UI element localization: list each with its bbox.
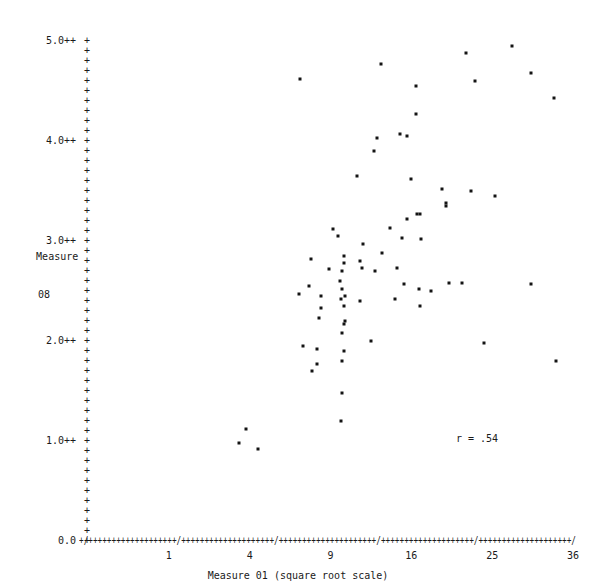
y-axis-tick-label: 1.0++ xyxy=(30,436,76,446)
data-point xyxy=(399,133,402,136)
data-point xyxy=(358,260,361,263)
data-point xyxy=(379,63,382,66)
data-point xyxy=(342,323,345,326)
data-point xyxy=(342,262,345,265)
y-axis-tick-label: 0.0 xyxy=(36,536,76,546)
data-point xyxy=(529,72,532,75)
y-axis-title: Measure 08 xyxy=(12,228,76,342)
x-axis-tick-label: 9 xyxy=(327,551,333,561)
data-point xyxy=(395,267,398,270)
data-point xyxy=(311,370,314,373)
data-point xyxy=(416,213,419,216)
data-point xyxy=(410,178,413,181)
data-point xyxy=(393,298,396,301)
data-point xyxy=(372,150,375,153)
data-point xyxy=(340,298,343,301)
data-point xyxy=(420,238,423,241)
data-point xyxy=(553,97,556,100)
y-axis-tick-label: 4.0++ xyxy=(30,136,76,146)
x-axis-title: Measure 01 (square root scale) xyxy=(0,570,596,582)
data-point xyxy=(370,340,373,343)
data-point xyxy=(338,280,341,283)
data-point xyxy=(362,243,365,246)
data-point xyxy=(444,202,447,205)
data-point xyxy=(418,288,421,291)
x-axis-tick-label: 1 xyxy=(166,551,172,561)
scatter-plot-figure: ++++++++++++++++++++++++++++++++++++++++… xyxy=(0,0,596,587)
data-point xyxy=(341,288,344,291)
data-point xyxy=(415,113,418,116)
data-point xyxy=(494,195,497,198)
data-point xyxy=(401,237,404,240)
data-point xyxy=(238,442,241,445)
data-point xyxy=(341,270,344,273)
data-point xyxy=(441,188,444,191)
data-point xyxy=(373,270,376,273)
data-point xyxy=(342,305,345,308)
data-point xyxy=(332,228,335,231)
data-point xyxy=(483,342,486,345)
data-point xyxy=(444,205,447,208)
data-point xyxy=(297,293,300,296)
data-point xyxy=(340,420,343,423)
data-point xyxy=(419,213,422,216)
data-point xyxy=(470,190,473,193)
data-point xyxy=(415,85,418,88)
data-point xyxy=(465,52,468,55)
x-axis-line: +/+++++++++++++++++++/++++++++++++++++++… xyxy=(79,536,576,546)
y-axis-tick-label: 5.0++ xyxy=(30,36,76,46)
data-point xyxy=(256,448,259,451)
data-point xyxy=(342,350,345,353)
data-point xyxy=(406,218,409,221)
y-axis-title-line-1: Measure xyxy=(36,251,78,262)
data-point xyxy=(341,332,344,335)
data-point xyxy=(309,258,312,261)
data-point xyxy=(389,227,392,230)
data-point xyxy=(406,135,409,138)
x-axis-tick-label: 4 xyxy=(247,551,253,561)
data-point xyxy=(315,348,318,351)
data-point xyxy=(403,283,406,286)
data-point xyxy=(380,252,383,255)
data-point xyxy=(244,428,247,431)
correlation-annotation: r = .54 xyxy=(456,433,498,445)
data-point xyxy=(361,267,364,270)
data-point xyxy=(299,78,302,81)
data-point xyxy=(302,345,305,348)
data-point xyxy=(419,305,422,308)
y-axis-tick-column: ++++++++++++++++++++++++++++++++++++++++… xyxy=(84,0,98,587)
y-axis-title-line-2: 08 xyxy=(12,285,76,304)
data-point xyxy=(337,235,340,238)
data-point xyxy=(342,255,345,258)
data-point xyxy=(319,295,322,298)
data-point xyxy=(343,295,346,298)
x-axis-tick-label: 16 xyxy=(405,551,417,561)
x-axis-tick-label: 25 xyxy=(486,551,498,561)
data-point xyxy=(376,137,379,140)
data-point xyxy=(318,317,321,320)
data-point xyxy=(358,300,361,303)
data-point xyxy=(319,307,322,310)
x-axis-tick-label: 36 xyxy=(567,551,579,561)
data-point xyxy=(447,282,450,285)
data-point xyxy=(341,360,344,363)
data-point xyxy=(308,285,311,288)
data-point xyxy=(473,80,476,83)
data-point xyxy=(554,360,557,363)
data-point xyxy=(460,282,463,285)
data-point xyxy=(429,290,432,293)
data-point xyxy=(328,268,331,271)
data-point xyxy=(315,363,318,366)
data-point xyxy=(343,320,346,323)
data-point xyxy=(341,392,344,395)
data-point xyxy=(529,283,532,286)
data-point xyxy=(510,45,513,48)
data-point xyxy=(356,175,359,178)
